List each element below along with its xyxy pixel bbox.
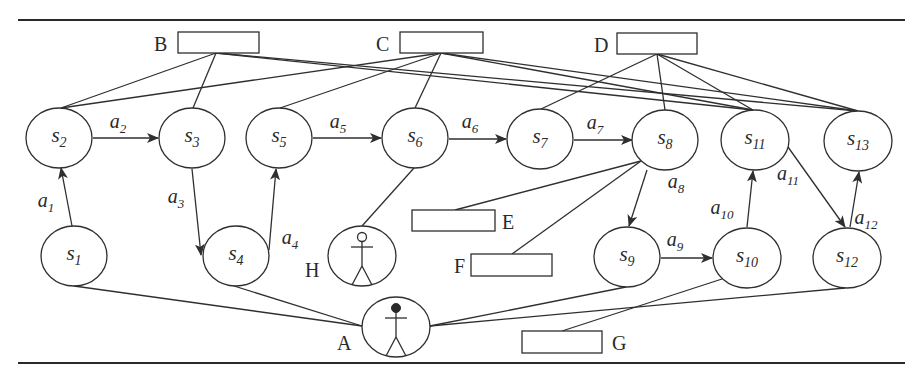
label-prefix: a (855, 206, 865, 228)
action-a9: a9 (661, 228, 712, 258)
node-label: a6 (462, 110, 479, 136)
node-label: a11 (777, 162, 799, 188)
label-subscript: 13 (855, 138, 869, 153)
actor-label: H (305, 259, 319, 281)
label-subscript: 9 (628, 254, 635, 269)
label-subscript: 2 (60, 135, 67, 150)
label-subscript: 4 (292, 237, 299, 252)
label-subscript: 6 (416, 135, 423, 150)
link-b (216, 53, 858, 111)
label-prefix: s (66, 241, 74, 265)
label-prefix: a (462, 110, 472, 132)
box-rect (400, 32, 483, 53)
state-transition-diagram: a1a2a3a4a5a6a7a8a9a10a11a12 BCDEFG s1s2s… (0, 0, 921, 383)
action-a7: a7 (574, 111, 632, 140)
box-rect (617, 33, 697, 54)
info-boxes: BCDEFG (154, 32, 697, 354)
state-s13: s13 (824, 111, 892, 171)
state-s3: s3 (159, 108, 225, 168)
label-subscript: 8 (666, 137, 673, 152)
label-subscript: 10 (721, 207, 735, 222)
label-subscript: 10 (744, 255, 758, 270)
label-subscript: 12 (844, 255, 858, 270)
action-a5: a5 (313, 110, 381, 138)
state-s5: s5 (246, 108, 312, 168)
link-c (441, 53, 858, 111)
label-subscript: 8 (678, 181, 685, 196)
link-a (234, 286, 362, 326)
action-a3: a3 (168, 169, 201, 255)
box-rect (178, 32, 259, 53)
box-label: D (594, 34, 608, 56)
state-s6: s6 (382, 108, 448, 168)
label-subscript: 7 (597, 122, 604, 137)
link-s6 (362, 168, 414, 226)
label-prefix: s (836, 243, 844, 267)
label-prefix: a (330, 110, 340, 132)
label-subscript: 11 (753, 137, 766, 152)
link-c (415, 53, 441, 108)
label-subscript: 5 (280, 135, 287, 150)
link-b (61, 53, 216, 108)
state-s12: s12 (813, 228, 881, 288)
node-label: a9 (667, 228, 684, 254)
box-e: E (412, 210, 514, 233)
node-label: a5 (330, 110, 347, 136)
label-prefix: a (587, 111, 597, 133)
action-a12: a12 (850, 172, 878, 232)
label-prefix: a (711, 196, 721, 218)
label-prefix: s (228, 241, 236, 265)
actor-nodes: HA (305, 226, 430, 357)
box-rect (522, 331, 602, 353)
horizontal-rules (18, 20, 905, 363)
node-label: a7 (587, 111, 604, 137)
action-a6: a6 (449, 110, 506, 139)
actor-h: H (305, 226, 396, 286)
label-subscript: 4 (237, 253, 244, 268)
label-prefix: a (668, 170, 678, 192)
node-label: a4 (282, 226, 299, 252)
label-prefix: s (51, 123, 59, 147)
label-subscript: 7 (541, 136, 549, 151)
link-d (541, 54, 657, 109)
label-prefix: s (184, 123, 192, 147)
label-subscript: 3 (177, 196, 185, 211)
label-subscript: 1 (75, 253, 82, 268)
action-a1: a1 (38, 168, 72, 226)
arrow-icon (747, 171, 753, 227)
box-label: G (612, 332, 626, 354)
label-prefix: a (282, 226, 292, 248)
node-label: a3 (168, 185, 185, 211)
label-prefix: s (619, 242, 627, 266)
link-a (430, 288, 845, 326)
state-s4: s4 (203, 226, 269, 286)
action-a10: a10 (711, 171, 754, 227)
box-label: E (502, 211, 514, 233)
node-label: a12 (855, 206, 879, 232)
link-s10 (562, 279, 722, 331)
label-subscript: 9 (677, 239, 684, 254)
node-label: a2 (110, 110, 127, 136)
node-label: a8 (668, 170, 685, 196)
arrow-icon (192, 169, 201, 255)
label-subscript: 6 (472, 121, 479, 136)
link-c (61, 53, 441, 108)
label-prefix: a (110, 110, 120, 132)
link-a (74, 286, 362, 326)
association-lines (61, 53, 858, 331)
state-s1: s1 (41, 226, 107, 286)
link-b (193, 53, 216, 108)
label-subscript: 11 (787, 173, 799, 188)
state-s2: s2 (26, 108, 92, 168)
label-prefix: a (667, 228, 677, 250)
label-prefix: a (168, 185, 178, 207)
node-label: a1 (38, 189, 55, 215)
label-subscript: 12 (865, 217, 879, 232)
label-prefix: a (38, 189, 48, 211)
label-subscript: 5 (340, 121, 347, 136)
box-f: F (454, 254, 552, 277)
box-label: F (454, 255, 465, 277)
box-label: C (376, 33, 389, 55)
label-prefix: s (744, 125, 752, 149)
actor-a: A (337, 297, 430, 357)
